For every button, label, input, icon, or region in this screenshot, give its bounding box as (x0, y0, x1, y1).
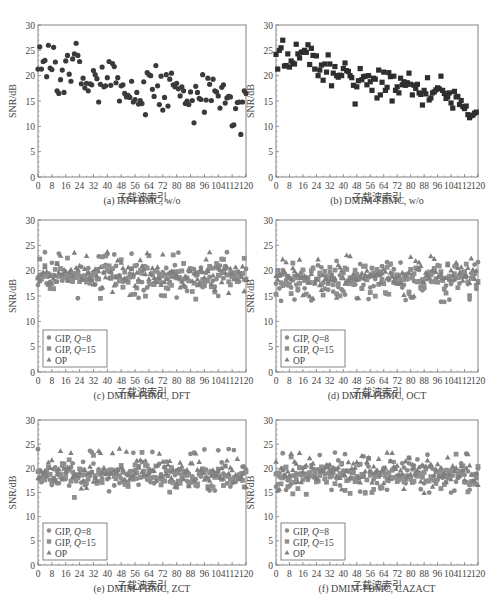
x-tick-label: 40 (103, 376, 113, 386)
x-tick-label: 32 (89, 376, 99, 386)
x-tick-label: 104 (444, 569, 459, 579)
x-tick-label: 24 (312, 569, 322, 579)
y-tick-label: 25 (26, 241, 36, 251)
y-tick-label: 5 (268, 147, 273, 157)
x-tick-label: 64 (379, 181, 389, 191)
x-tick-label: 24 (75, 569, 85, 579)
x-tick-label: 96 (200, 569, 210, 579)
x-tick-label: 96 (200, 181, 210, 191)
data-points (35, 41, 248, 137)
y-tick-label: 0 (268, 368, 273, 378)
x-tick-label: 56 (366, 376, 376, 386)
y-tick-label: 5 (268, 342, 273, 352)
x-tick-label: 40 (103, 569, 113, 579)
x-tick-label: 80 (406, 376, 416, 386)
x-tick-label: 32 (325, 569, 335, 579)
x-tick-label: 72 (392, 376, 402, 386)
x-tick-label: 96 (200, 376, 210, 386)
x-tick-label: 48 (352, 569, 362, 579)
panel-caption: (c) DMIM-FBMC, DFT (94, 390, 191, 402)
x-tick-label: 40 (339, 569, 349, 579)
x-tick-label: 32 (325, 376, 335, 386)
x-tick-label: 48 (352, 376, 362, 386)
y-axis-title: SNR/dB (245, 84, 256, 118)
x-tick-label: 80 (406, 181, 416, 191)
legend: GIP, Q=8GIP, Q=15OP (281, 330, 345, 367)
x-tick-label: 8 (49, 181, 54, 191)
x-tick-label: 32 (89, 181, 99, 191)
y-tick-label: 10 (26, 122, 36, 132)
x-tick-label: 8 (287, 376, 292, 386)
y-tick-label: 30 (26, 21, 36, 31)
legend-label: OP (293, 356, 305, 366)
x-tick-label: 0 (274, 181, 279, 191)
x-tick-label: 64 (144, 181, 154, 191)
x-tick-label: 56 (130, 181, 140, 191)
x-tick-label: 104 (211, 569, 226, 579)
legend-label: GIP, Q=15 (55, 538, 96, 548)
x-tick-label: 96 (433, 569, 443, 579)
y-tick-label: 10 (264, 122, 274, 132)
x-tick-label: 120 (239, 181, 254, 191)
y-axis-title: SNR/dB (245, 279, 256, 313)
x-tick-label: 88 (419, 181, 429, 191)
x-tick-label: 120 (471, 376, 486, 386)
x-tick-label: 80 (406, 569, 416, 579)
x-tick-label: 56 (130, 569, 140, 579)
y-tick-label: 25 (264, 46, 274, 56)
panel-c: 0510152025300816243240485664728088961041… (7, 216, 253, 403)
y-tick-label: 0 (30, 368, 35, 378)
x-tick-label: 16 (61, 376, 71, 386)
x-tick-label: 72 (158, 181, 168, 191)
legend: GIP, Q=8GIP, Q=15OP (43, 330, 107, 367)
legend-label: OP (55, 549, 67, 559)
x-tick-label: 8 (49, 569, 54, 579)
y-tick-label: 10 (26, 317, 36, 327)
y-tick-label: 30 (26, 416, 36, 426)
x-tick-label: 120 (471, 181, 486, 191)
x-tick-label: 112 (225, 569, 239, 579)
y-tick-label: 0 (268, 561, 273, 571)
x-tick-label: 16 (298, 181, 308, 191)
data-points (35, 446, 249, 500)
figure: 0510152025300816243240485664728088961041… (0, 0, 497, 615)
y-tick-label: 15 (264, 97, 274, 107)
x-tick-label: 40 (339, 181, 349, 191)
y-tick-label: 0 (268, 173, 273, 183)
y-tick-label: 25 (26, 46, 36, 56)
legend-label: GIP, Q=8 (55, 527, 91, 537)
x-tick-label: 32 (89, 569, 99, 579)
x-tick-label: 56 (130, 376, 140, 386)
y-tick-label: 30 (264, 216, 274, 226)
x-tick-label: 8 (287, 569, 292, 579)
x-tick-label: 56 (366, 181, 376, 191)
y-tick-label: 20 (264, 71, 274, 81)
x-tick-label: 88 (186, 376, 196, 386)
x-tick-label: 56 (366, 569, 376, 579)
x-tick-label: 64 (379, 376, 389, 386)
x-tick-label: 16 (61, 569, 71, 579)
x-tick-label: 0 (274, 569, 279, 579)
y-tick-label: 20 (264, 266, 274, 276)
data-points (273, 252, 481, 304)
legend-label: OP (293, 549, 305, 559)
x-tick-label: 112 (458, 181, 472, 191)
x-tick-label: 48 (116, 181, 126, 191)
y-tick-label: 25 (264, 440, 274, 450)
y-tick-label: 15 (264, 488, 274, 498)
x-tick-label: 48 (116, 569, 126, 579)
x-tick-label: 0 (274, 376, 279, 386)
y-tick-label: 15 (26, 97, 36, 107)
y-tick-label: 20 (26, 71, 36, 81)
y-tick-label: 15 (264, 292, 274, 302)
y-tick-label: 20 (26, 464, 36, 474)
x-tick-label: 104 (444, 376, 459, 386)
legend-label: GIP, Q=15 (293, 345, 334, 355)
legend-label: GIP, Q=8 (293, 334, 329, 344)
y-tick-label: 30 (264, 21, 274, 31)
y-tick-label: 25 (26, 440, 36, 450)
x-tick-label: 104 (444, 181, 459, 191)
x-tick-label: 0 (36, 181, 41, 191)
x-tick-label: 88 (419, 376, 429, 386)
x-tick-label: 8 (49, 376, 54, 386)
